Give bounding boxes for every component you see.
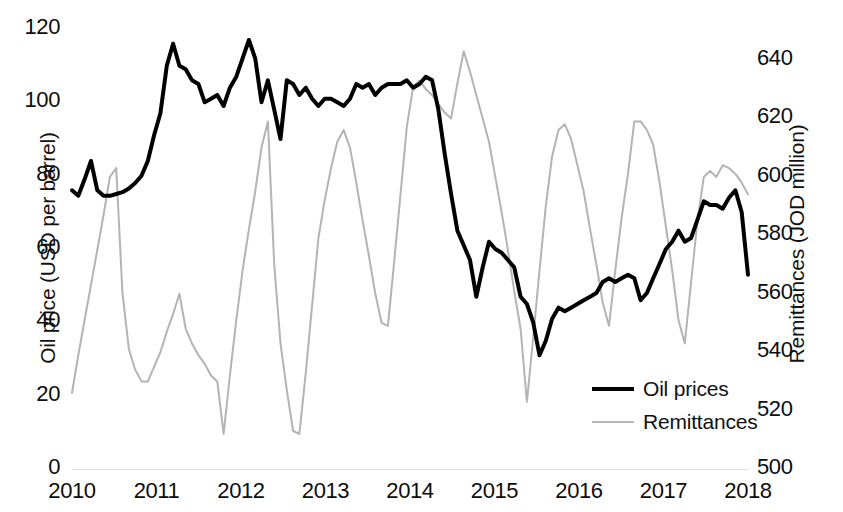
y-axis-left-tick-80: 80 [0, 161, 60, 187]
legend-label-oil-prices: Oil prices [643, 377, 729, 401]
legend-swatch-oil-icon [592, 387, 634, 391]
legend-swatch-remittances-icon [592, 421, 634, 423]
y-axis-left-tick-120: 120 [0, 14, 60, 40]
x-axis-tick-2014: 2014 [375, 478, 445, 504]
y-axis-right-tick-500: 500 [757, 454, 817, 480]
dual-axis-line-chart: Oil price (USD per barrel) Remittances (… [0, 0, 843, 512]
y-axis-left-tick-100: 100 [0, 87, 60, 113]
x-axis-tick-2018: 2018 [713, 478, 783, 504]
legend-item-remittances: Remittances [592, 405, 782, 438]
series-line-oil-prices [72, 40, 748, 355]
y-axis-right-tick-540: 540 [757, 337, 817, 363]
y-axis-left-tick-20: 20 [0, 381, 60, 407]
chart-legend: Oil prices Remittances [592, 372, 782, 438]
x-axis-tick-2011: 2011 [122, 478, 192, 504]
y-axis-left-tick-0: 0 [0, 454, 60, 480]
legend-label-remittances: Remittances [643, 410, 758, 434]
y-axis-right-tick-520: 520 [757, 396, 817, 422]
x-axis-tick-2012: 2012 [206, 478, 276, 504]
y-axis-right-tick-580: 580 [757, 220, 817, 246]
x-axis-tick-2010: 2010 [37, 478, 107, 504]
y-axis-right-tick-600: 600 [757, 162, 817, 188]
y-axis-right-tick-560: 560 [757, 279, 817, 305]
x-axis-tick-2015: 2015 [460, 478, 530, 504]
x-axis-tick-2013: 2013 [291, 478, 361, 504]
legend-item-oil-prices: Oil prices [592, 372, 782, 405]
x-axis-tick-2017: 2017 [629, 478, 699, 504]
y-axis-left-tick-40: 40 [0, 307, 60, 333]
x-axis-tick-2016: 2016 [544, 478, 614, 504]
y-axis-right-tick-620: 620 [757, 103, 817, 129]
y-axis-left-tick-60: 60 [0, 234, 60, 260]
y-axis-right-tick-640: 640 [757, 45, 817, 71]
